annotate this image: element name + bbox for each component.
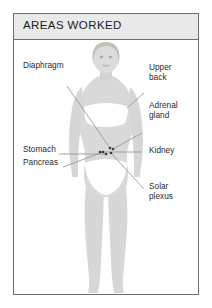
marker-solar-plexus	[110, 152, 113, 155]
right-eye-icon	[109, 56, 113, 58]
left-eye-icon	[100, 56, 104, 58]
callout-label-diaphragm: Diaphragm	[23, 61, 64, 71]
areas-worked-card: AREAS WORKED	[13, 13, 199, 295]
marker-kidney	[99, 151, 102, 154]
callout-label-adrenal-gland: Adrenal gland	[149, 101, 178, 120]
bra-garment	[84, 103, 128, 127]
marker-pancreas	[102, 151, 105, 154]
page-title: AREAS WORKED	[23, 19, 122, 31]
callout-label-stomach: Stomach	[23, 145, 56, 155]
marker-stomach	[105, 153, 108, 156]
body-figure	[69, 42, 143, 293]
card-header: AREAS WORKED	[14, 14, 198, 40]
callout-label-pancreas: Pancreas	[23, 158, 58, 168]
marker-diaphragm	[109, 147, 112, 150]
diagram-stage: Diaphragm Stomach Pancreas Upper back Ad…	[14, 41, 198, 295]
callout-label-upper-back: Upper back	[149, 63, 172, 82]
callout-label-kidney: Kidney	[149, 146, 174, 156]
callout-label-solar-plexus: Solar plexus	[149, 182, 173, 201]
marker-adrenal-gland	[112, 148, 115, 151]
